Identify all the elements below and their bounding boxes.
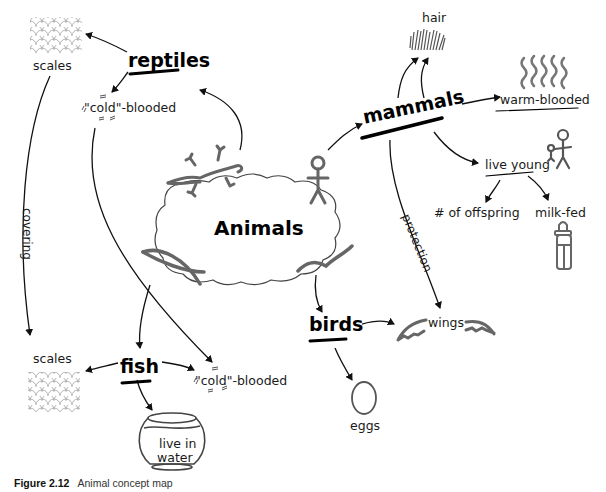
figure-number: Figure 2.12 xyxy=(14,477,69,489)
node-number-of-offspring: # of offspring xyxy=(434,205,520,220)
category-reptiles: reptiles xyxy=(128,49,210,71)
scales-pattern-icon xyxy=(30,17,82,53)
figure-caption: Figure 2.12Animal concept map xyxy=(14,477,173,489)
node-reptile-cold-blooded: "cold"-blooded xyxy=(84,100,176,115)
node-fish-scales: scales xyxy=(33,351,72,366)
node-live-in-water-line1: live in xyxy=(159,436,196,451)
scales-pattern-icon xyxy=(28,372,80,412)
node-warm-blooded: warm-blooded xyxy=(500,92,590,107)
node-reptile-scales: scales xyxy=(33,58,72,73)
edge-label-covering: covering xyxy=(20,208,34,260)
node-fish-cold-blooded: "cold"-blooded xyxy=(195,373,287,388)
parent-child-icon xyxy=(548,130,571,168)
hub-node-animals: Animals xyxy=(214,216,304,240)
node-live-young: live young xyxy=(485,157,550,172)
category-fish: fish xyxy=(120,355,159,377)
baby-bottle-icon xyxy=(555,222,571,269)
node-eggs: eggs xyxy=(350,418,380,433)
node-milk-fed: milk-fed xyxy=(535,205,586,220)
category-birds: birds xyxy=(309,313,363,335)
concept-map-canvas xyxy=(0,0,606,492)
node-live-in-water-line2: water xyxy=(157,450,193,465)
heat-waves-icon xyxy=(522,56,567,88)
hair-icon xyxy=(410,29,445,50)
figure-title: Animal concept map xyxy=(77,477,172,489)
node-wings: wings xyxy=(428,315,464,330)
egg-icon xyxy=(352,382,376,414)
node-hair: hair xyxy=(422,10,446,25)
